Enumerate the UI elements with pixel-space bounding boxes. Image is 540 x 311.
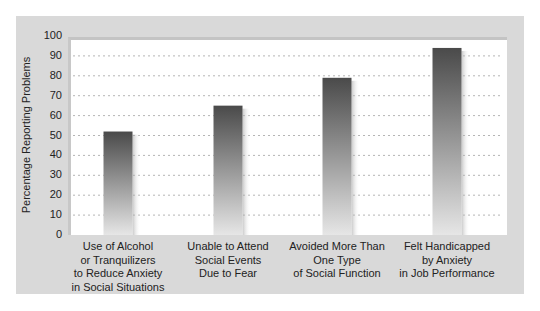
bar — [104, 132, 133, 235]
bar — [214, 106, 243, 235]
bar-shadow — [133, 135, 141, 235]
bar-shadow — [243, 109, 251, 235]
x-category-label-line: by Anxiety — [382, 254, 512, 268]
x-category-label-line: in Job Performance — [382, 267, 512, 281]
y-tick-label: 90 — [32, 49, 62, 61]
y-tick-label: 80 — [32, 69, 62, 81]
y-tick-label: 10 — [32, 208, 62, 220]
x-category-label-line: Felt Handicapped — [382, 240, 512, 254]
bar-shadow — [462, 51, 470, 235]
y-tick-label: 60 — [32, 109, 62, 121]
bar — [323, 78, 352, 235]
bar-shadow — [352, 81, 360, 235]
y-tick-label: 30 — [32, 168, 62, 180]
y-tick-label: 100 — [32, 29, 62, 41]
x-category-label-line: in Social Situations — [53, 281, 183, 295]
bar — [433, 48, 462, 235]
y-tick-label: 40 — [32, 148, 62, 160]
y-tick-label: 0 — [32, 228, 62, 240]
x-category-label: Felt Handicappedby Anxietyin Job Perform… — [382, 240, 512, 281]
y-tick-label: 70 — [32, 89, 62, 101]
y-tick-label: 20 — [32, 188, 62, 200]
y-tick-label: 50 — [32, 129, 62, 141]
